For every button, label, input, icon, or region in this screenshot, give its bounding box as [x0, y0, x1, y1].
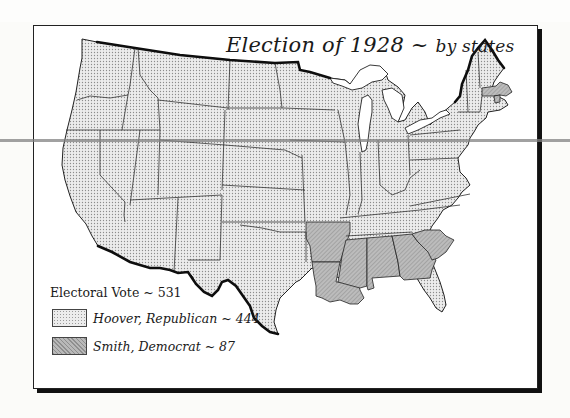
scan-artifact-line — [0, 139, 570, 142]
legend-heading: Electoral Vote ~ 531 — [50, 285, 182, 300]
legend-entry-smith: Smith, Democrat ~ 87 — [52, 337, 235, 355]
legend-label-smith: Smith, Democrat ~ 87 — [93, 339, 235, 354]
map-subtitle: by states — [436, 36, 515, 56]
hoover-swatch — [52, 309, 87, 327]
map-title-separator: ~ — [411, 33, 429, 57]
smith-swatch — [52, 337, 87, 355]
us-election-map — [0, 0, 570, 418]
legend-label-hoover: Hoover, Republican ~ 444 — [93, 311, 260, 326]
map-title-main: Election of 1928 — [226, 33, 404, 57]
map-title: Election of 1928 ~ by states — [226, 33, 515, 57]
state-rhode-island-smith — [494, 95, 500, 103]
legend-entry-hoover: Hoover, Republican ~ 444 — [52, 309, 260, 327]
